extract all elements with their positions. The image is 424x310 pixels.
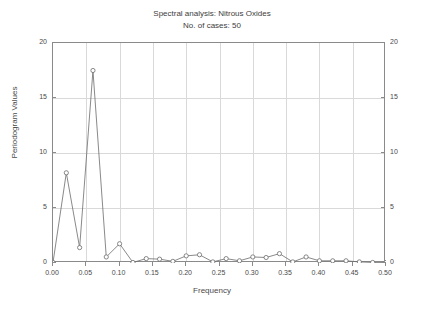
data-point-marker (211, 260, 215, 263)
data-point-marker (144, 257, 148, 261)
y-tick-label-right: 20 (390, 38, 414, 45)
data-series-periodogram (53, 43, 386, 263)
y-tickmark-left (52, 262, 56, 263)
spectral-analysis-chart: Spectral analysis: Nitrous Oxides No. of… (0, 0, 424, 310)
y-tickmark-left (52, 152, 56, 153)
chart-title-block: Spectral analysis: Nitrous Oxides No. of… (0, 8, 424, 32)
x-tickmark (285, 262, 286, 266)
y-tickmark-right (381, 152, 385, 153)
data-point-marker (291, 260, 295, 263)
y-tick-label-right: 10 (390, 148, 414, 155)
x-tickmark (385, 262, 386, 266)
y-tick-label-left: 0 (23, 258, 47, 265)
data-point-marker (157, 257, 161, 261)
data-point-marker (171, 259, 175, 263)
data-point-marker (371, 260, 375, 263)
x-tickmark (318, 262, 319, 266)
data-point-marker (237, 259, 241, 263)
data-point-marker (344, 259, 348, 263)
y-tickmark-left (52, 207, 56, 208)
data-point-marker (224, 257, 228, 261)
x-axis-title: Frequency (0, 286, 424, 295)
y-tick-label-right: 15 (390, 93, 414, 100)
x-tickmark (185, 262, 186, 266)
y-tick-label-right: 5 (390, 203, 414, 210)
y-tickmark-right (381, 262, 385, 263)
data-point-marker (277, 252, 281, 256)
data-point-marker (64, 171, 68, 175)
y-axis-title: Periodogram Values (10, 53, 19, 193)
data-point-marker (118, 242, 122, 246)
y-tickmark-right (381, 42, 385, 43)
page-title: Spectral analysis: Nitrous Oxides (0, 8, 424, 20)
y-tickmark-right (381, 97, 385, 98)
series-line (53, 71, 386, 263)
y-tick-label-right: 0 (390, 258, 414, 265)
data-point-marker (91, 68, 95, 72)
x-tickmark (85, 262, 86, 266)
x-tickmark (219, 262, 220, 266)
y-tickmark-left (52, 42, 56, 43)
x-tickmark (119, 262, 120, 266)
y-tick-label-left: 20 (23, 38, 47, 45)
y-tickmark-left (52, 97, 56, 98)
data-point-marker (264, 255, 268, 259)
y-tick-label-left: 15 (23, 93, 47, 100)
y-tick-label-left: 5 (23, 203, 47, 210)
data-point-marker (331, 259, 335, 263)
plot-area (52, 42, 385, 262)
x-tickmark (152, 262, 153, 266)
y-tickmark-right (381, 207, 385, 208)
x-tickmark (352, 262, 353, 266)
data-point-marker (251, 255, 255, 259)
data-point-marker (184, 254, 188, 258)
data-point-marker (197, 253, 201, 257)
data-point-marker (78, 246, 82, 250)
y-tick-label-left: 10 (23, 148, 47, 155)
chart-subtitle: No. of cases: 50 (0, 20, 424, 32)
x-tickmark (252, 262, 253, 266)
data-point-marker (104, 255, 108, 259)
data-point-marker (357, 260, 361, 263)
data-point-marker (131, 260, 135, 263)
data-point-marker (304, 255, 308, 259)
x-tick-label: 0.50 (365, 269, 405, 276)
